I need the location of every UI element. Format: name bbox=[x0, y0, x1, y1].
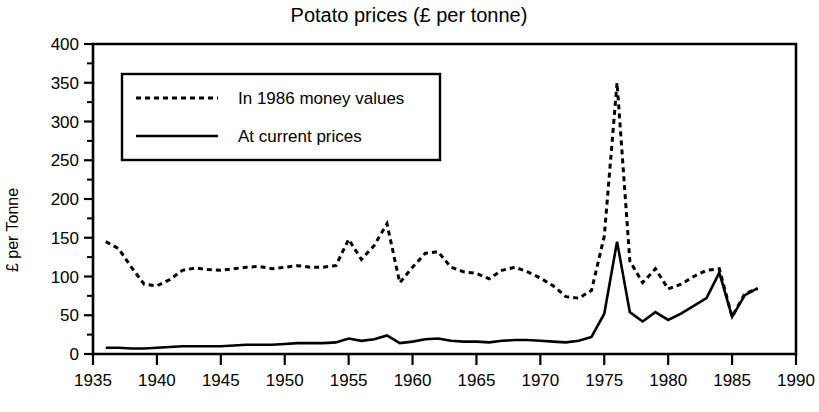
x-tick-label: 1935 bbox=[74, 371, 112, 390]
y-tick-label: 50 bbox=[60, 306, 79, 325]
legend-label: At current prices bbox=[238, 127, 362, 146]
x-tick-label: 1945 bbox=[202, 371, 240, 390]
chart-root: Potato prices (£ per tonne) £ per Tonne … bbox=[0, 0, 819, 412]
x-tick-label: 1940 bbox=[138, 371, 176, 390]
x-tick-label: 1950 bbox=[266, 371, 304, 390]
y-tick-label: 150 bbox=[51, 229, 79, 248]
x-tick-label: 1985 bbox=[713, 371, 751, 390]
chart-title: Potato prices (£ per tonne) bbox=[291, 4, 528, 26]
y-tick-label: 300 bbox=[51, 113, 79, 132]
chart-background bbox=[0, 0, 819, 412]
chart-legend: In 1986 money valuesAt current prices bbox=[122, 74, 440, 160]
y-tick-label: 400 bbox=[51, 35, 79, 54]
x-tick-label: 1970 bbox=[521, 371, 559, 390]
y-axis-label: £ per Tonne bbox=[4, 188, 21, 272]
y-tick-label: 350 bbox=[51, 74, 79, 93]
x-tick-label: 1975 bbox=[585, 371, 623, 390]
legend-label: In 1986 money values bbox=[238, 89, 404, 108]
x-tick-label: 1965 bbox=[458, 371, 496, 390]
y-tick-label: 0 bbox=[70, 345, 79, 364]
x-tick-label: 1980 bbox=[649, 371, 687, 390]
legend-box bbox=[122, 74, 440, 160]
y-tick-label: 100 bbox=[51, 268, 79, 287]
y-tick-label: 250 bbox=[51, 151, 79, 170]
x-tick-label: 1990 bbox=[777, 371, 815, 390]
x-tick-label: 1955 bbox=[330, 371, 368, 390]
x-tick-label: 1960 bbox=[394, 371, 432, 390]
potato-prices-chart: Potato prices (£ per tonne) £ per Tonne … bbox=[0, 0, 819, 412]
y-tick-label: 200 bbox=[51, 190, 79, 209]
